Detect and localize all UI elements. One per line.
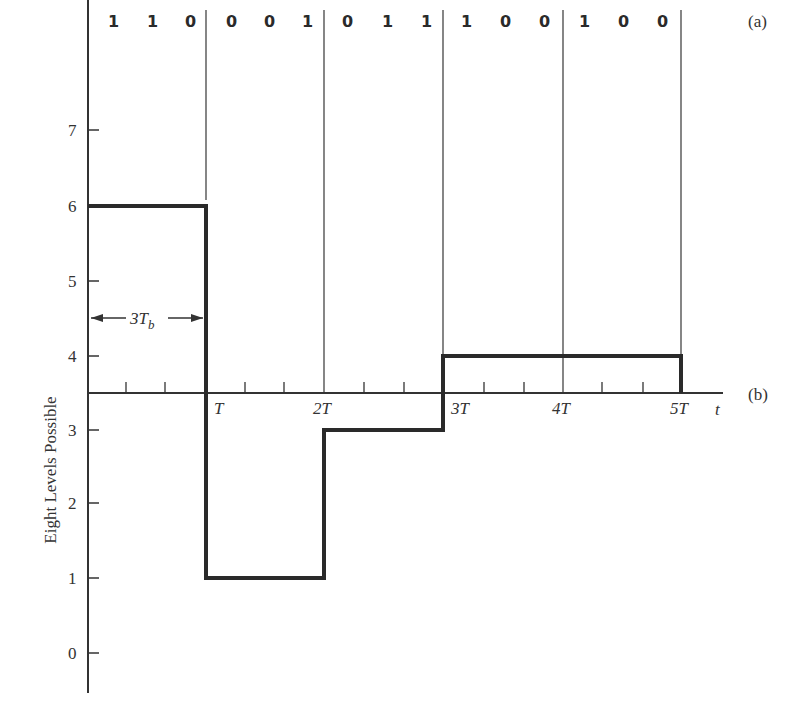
x-tick-label: 2T	[313, 399, 333, 418]
bit: 0	[264, 12, 275, 31]
bit: 0	[500, 12, 511, 31]
bit: 1	[579, 12, 590, 31]
bit: 0	[185, 12, 196, 31]
y-tick-label: 3	[68, 421, 77, 440]
bit: 0	[539, 12, 550, 31]
x-axis-label: t	[715, 400, 721, 419]
bit: 1	[108, 12, 119, 31]
x-tick-label: 3T	[450, 399, 471, 418]
y-tick-label: 2	[68, 494, 77, 513]
x-tick-label: 4T	[552, 399, 572, 418]
bit: 0	[342, 12, 353, 31]
bit: 1	[461, 12, 472, 31]
bit: 1	[147, 12, 158, 31]
y-tick-label: 4	[68, 347, 77, 366]
y-tick-label: 5	[68, 272, 77, 291]
panel-a-label: (a)	[748, 12, 767, 31]
y-tick-labels: 0 1 2 3 4 5 6 7	[68, 121, 77, 663]
panel-b-label: (b)	[748, 385, 768, 404]
y-tick-label: 6	[68, 197, 77, 216]
time-axis-minor-ticks	[126, 382, 643, 393]
symbol-duration-annotation: 3Tb	[91, 309, 203, 332]
bit-labels: 1 1 0 0 0 1 0 1 1 1 0 0 1 0 0	[108, 12, 668, 31]
bit: 0	[657, 12, 668, 31]
bit: 0	[226, 12, 237, 31]
y-tick-label: 7	[68, 121, 77, 140]
arrow-right-icon	[191, 314, 203, 322]
y-axis-label: Eight Levels Possible	[41, 396, 60, 543]
arrow-left-icon	[91, 314, 103, 322]
bit: 1	[382, 12, 393, 31]
y-tick-label: 1	[68, 569, 77, 588]
x-tick-label: T	[214, 399, 225, 418]
bit: 0	[618, 12, 629, 31]
y-tick-label: 0	[68, 644, 77, 663]
annotation-3t: 3Tb	[129, 309, 155, 332]
y-ticks	[88, 130, 99, 653]
bit: 1	[302, 12, 313, 31]
x-tick-label: 5T	[670, 399, 690, 418]
bit: 1	[421, 12, 432, 31]
x-tick-labels: T 2T 3T 4T 5T	[214, 399, 690, 418]
multilevel-signal-figure: 1 1 0 0 0 1 0 1 1 1 0 0 1 0 0 (a) 0 1 2 …	[0, 0, 809, 726]
symbol-dividers	[206, 10, 681, 393]
